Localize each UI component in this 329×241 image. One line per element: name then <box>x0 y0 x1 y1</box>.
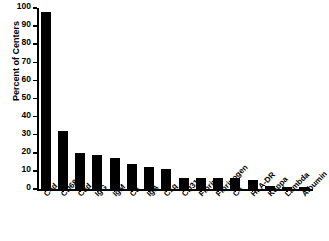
y-tick-label: 90 <box>22 19 31 29</box>
bar-series <box>37 8 313 189</box>
y-tick-label: 70 <box>22 56 31 66</box>
y-tick-label: 30 <box>22 128 31 138</box>
y-axis-title: Percent of Centers <box>11 1 21 121</box>
y-tick-label: 10 <box>22 164 31 174</box>
y-tick-label: 80 <box>22 37 31 47</box>
bar <box>41 12 51 189</box>
plot-area: 0102030405060708090100 <box>37 8 313 189</box>
x-axis-labels: C4dCD68C3dIgGIgMC3IgAC1qCD31FibrinFibrin… <box>37 192 320 241</box>
y-tick-label: 60 <box>22 74 31 84</box>
y-tick-label: 20 <box>22 146 31 156</box>
y-tick-label: 50 <box>22 92 31 102</box>
y-tick-label: 40 <box>22 110 31 120</box>
bar <box>58 131 68 189</box>
y-tick-label: 100 <box>17 1 31 11</box>
y-tick-label: 0 <box>26 182 31 192</box>
